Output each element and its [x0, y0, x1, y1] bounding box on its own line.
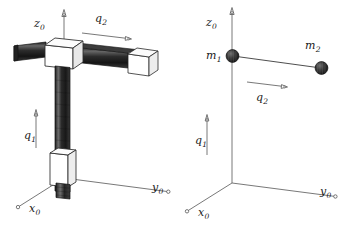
left-panel-group [14, 10, 170, 209]
left-x-axis-label: x0 [29, 203, 40, 214]
carriage-block [45, 38, 83, 69]
mass-m2-label: m2 [305, 40, 320, 51]
horizontal-bar-left-body [14, 42, 46, 61]
carriage-block-front-face [45, 45, 73, 69]
lower-collar-side-face [68, 150, 76, 187]
left-z-axis-arrow-dot-icon [63, 14, 65, 16]
figure-canvas [0, 0, 349, 226]
right-q2-arrow-dot-icon [284, 86, 286, 88]
left-x-axis-arrowhead-icon [16, 205, 19, 208]
left-axes [16, 10, 170, 209]
right-z-axis-label: z0 [206, 17, 217, 28]
end-effector-box-front-face [128, 54, 149, 76]
right-q2-arrow [247, 82, 288, 88]
left-q1-label: q1 [24, 130, 36, 141]
right-x-axis-line [188, 183, 232, 210]
right-y-axis-label: y0 [320, 186, 331, 197]
horizontal-bar-left-segment [14, 42, 46, 61]
mass-m2 [315, 62, 328, 75]
column-base-stub [56, 183, 70, 199]
mass-m2-body [315, 62, 328, 75]
left-z-axis-label: z0 [34, 18, 45, 29]
lower-collar-block [50, 148, 76, 187]
lower-collar-front-face [50, 153, 68, 187]
right-x-axis-arrowhead-icon [185, 210, 188, 213]
end-effector-box [128, 48, 158, 76]
link-m1-m2 [233, 56, 321, 68]
left-q2-label: q2 [95, 13, 107, 24]
left-q2-arrow-shaft [82, 33, 128, 39]
right-q2-label: q2 [256, 92, 268, 103]
left-q2-arrow-dot-icon [128, 38, 130, 40]
mass-m1 [226, 50, 239, 63]
mass-m1-body [226, 50, 239, 63]
column-base-stub-body [56, 183, 70, 199]
right-x-axis-label: x0 [198, 207, 209, 218]
left-q2-arrow [82, 33, 132, 40]
horizontal-bar-left-cap [14, 45, 18, 61]
right-q1-label: q1 [195, 135, 207, 146]
left-q1-arrow-dot-icon [35, 113, 37, 115]
right-q1-arrow-dot-icon [206, 118, 208, 120]
left-y-axis-arrowhead-icon [167, 190, 170, 193]
right-q2-arrow-shaft [247, 82, 284, 87]
robot-kinematics-figure: z0 y0 x0 q1 q2 z0 y0 x0 q1 q2 m1 m2 [0, 0, 349, 226]
left-y-axis-label: y0 [152, 182, 163, 193]
mass-m1-label: m1 [206, 50, 221, 61]
right-y-axis-arrowhead-icon [334, 195, 337, 198]
right-y-axis-line [232, 183, 334, 196]
right-z-axis-arrow-dot-icon [231, 12, 233, 14]
